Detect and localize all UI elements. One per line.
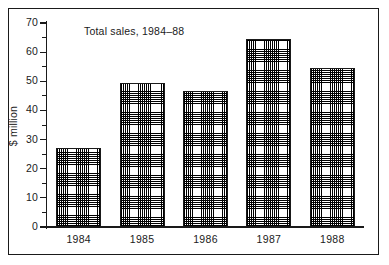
bar-1984 (56, 148, 101, 227)
figure-bar-chart-total-sales: 010203040506070 $ million Total sales, 1… (0, 0, 389, 265)
y-axis-tick-label: 0 (12, 220, 38, 232)
y-axis-major-tick (40, 22, 47, 23)
y-axis-major-tick (40, 197, 47, 198)
x-axis-tick-label-1987: 1987 (239, 233, 299, 245)
y-axis-major-tick (40, 226, 47, 227)
y-axis-major-tick (40, 139, 47, 140)
y-axis-tick-label: 70 (12, 16, 38, 28)
bar-1988 (310, 68, 355, 227)
y-axis-tick-label: 60 (12, 45, 38, 57)
y-axis-minor-tick (42, 37, 47, 38)
y-axis-minor-tick (42, 125, 47, 126)
bar-1986 (183, 91, 228, 227)
y-axis-major-tick (40, 168, 47, 169)
y-axis-major-tick (40, 110, 47, 111)
x-axis-tick-label-1985: 1985 (112, 233, 172, 245)
y-axis-minor-tick (42, 95, 47, 96)
y-axis-tick-label: 10 (12, 191, 38, 203)
bar-1987 (246, 39, 291, 227)
y-axis-minor-tick (42, 183, 47, 184)
y-axis-major-tick (40, 81, 47, 82)
x-axis-tick-label-1986: 1986 (176, 233, 236, 245)
y-axis-major-tick (40, 52, 47, 53)
y-axis-title: $ million (7, 76, 19, 176)
x-axis-tick-label-1984: 1984 (49, 233, 109, 245)
y-axis-minor-tick (42, 154, 47, 155)
y-axis-minor-tick (42, 66, 47, 67)
x-axis-tick-label-1988: 1988 (302, 233, 362, 245)
y-axis-minor-tick (42, 212, 47, 213)
chart-title: Total sales, 1984–88 (84, 25, 184, 37)
bar-1985 (120, 83, 165, 227)
